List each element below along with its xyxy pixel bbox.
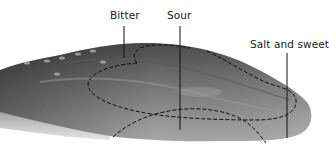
sour-label: Sour	[167, 9, 191, 21]
bitter-label: Bitter	[110, 9, 140, 21]
salt-and-sweet-label: Salt and sweet	[250, 38, 329, 50]
tongue-illustration	[0, 0, 329, 152]
tongue-diagram: Bitter Sour Salt and sweet	[0, 0, 329, 152]
